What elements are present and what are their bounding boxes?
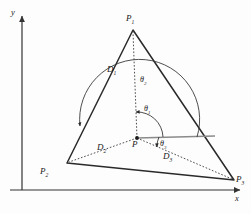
distance-label-d2: D2 <box>97 143 106 154</box>
vertex-label-p: P <box>132 140 138 149</box>
distance-rays <box>69 32 232 179</box>
distance-label-d1: D1 <box>107 65 116 76</box>
figure-canvas <box>0 0 251 214</box>
angle-label-theta2: θ2 <box>140 76 146 87</box>
axis-group <box>10 16 240 190</box>
y-axis-label: y <box>11 8 15 17</box>
vertex-label-p2: P2 <box>40 167 48 178</box>
vertex-label-p3: P3 <box>236 175 244 186</box>
angle-arc-theta1 <box>136 112 163 137</box>
distance-ray-d1 <box>133 32 137 138</box>
angle-arc-theta2 <box>80 59 200 137</box>
x-axis-label: x <box>235 194 239 203</box>
triangle-outline <box>67 30 234 180</box>
geometry-figure: P1 P2 P3 P D1 D2 D3 θ1 θ2 θ3 y x <box>0 0 251 214</box>
vertex-label-p1: P1 <box>126 14 134 25</box>
angle-label-theta3: θ3 <box>160 140 166 151</box>
angle-arc-theta3 <box>157 137 159 147</box>
distance-ray-d3 <box>137 138 232 179</box>
distance-label-d3: D3 <box>163 152 172 163</box>
horizontal-reference-ray <box>137 136 215 138</box>
angle-label-theta1: θ1 <box>144 105 150 116</box>
